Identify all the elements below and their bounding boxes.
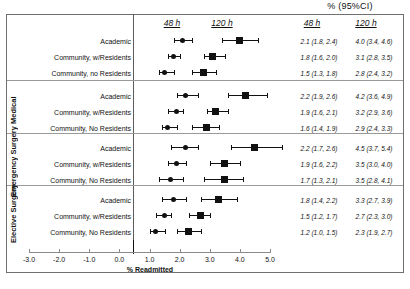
ci-cap-upper [174, 70, 175, 75]
ci-cap-upper [267, 93, 268, 98]
panel-elective-surgery: Elective SurgeryAcademic1.8 (1.4, 2.2)3.… [7, 189, 403, 239]
point-estimate-120h [221, 160, 228, 167]
point-estimate-48h [162, 213, 167, 218]
value-cell-120h: 3.3 (2.7, 3.9) [345, 197, 403, 204]
value-cell-120h: 2.9 (2.4, 3.3) [345, 125, 403, 132]
ci-cap-lower [159, 177, 160, 182]
column-header-plot-48h: 48 h [150, 18, 194, 28]
axis-tick [29, 249, 30, 253]
ci-cap-upper [177, 125, 178, 130]
value-cell-48h: 2.2 (1.9, 2.6) [291, 93, 347, 100]
ci-cap-lower [210, 161, 211, 166]
point-estimate-48h [171, 54, 176, 59]
ci-cap-lower [171, 145, 172, 150]
panel-divider [7, 80, 403, 81]
axis-tick [89, 249, 90, 253]
point-estimate-120h [236, 37, 243, 44]
ci-cap-lower [159, 70, 160, 75]
ci-cap-lower [156, 213, 157, 218]
value-cell-48h: 1.8 (1.4, 2.2) [291, 197, 347, 204]
ci-cap-upper [219, 125, 220, 130]
axis-tick [270, 249, 271, 253]
ci-cap-lower [192, 70, 193, 75]
ci-cap-upper [225, 54, 226, 59]
ci-cap-lower [177, 229, 178, 234]
ci-cap-upper [183, 109, 184, 114]
value-cell-48h: 1.5 (1.3, 1.8) [291, 70, 347, 77]
value-cell-120h: 3.2 (2.9, 3.6) [345, 109, 403, 116]
ci-cap-lower [168, 161, 169, 166]
point-estimate-120h [215, 196, 222, 203]
ci-cap-upper [243, 177, 244, 182]
axis-tick-label: 3.0 [198, 256, 222, 263]
ci-cap-upper [258, 38, 259, 43]
ci-cap-upper [198, 145, 199, 150]
ci-cap-lower [150, 229, 151, 234]
point-estimate-120h [221, 176, 228, 183]
ci-cap-upper [201, 229, 202, 234]
ci-cap-lower [168, 54, 169, 59]
point-estimate-48h [183, 93, 188, 98]
ci-cap-lower [207, 109, 208, 114]
ci-cap-upper [180, 54, 181, 59]
axis-tick-label: 5.0 [258, 256, 282, 263]
point-estimate-120h [242, 92, 249, 99]
axis-tick [150, 249, 151, 253]
ci-cap-upper [282, 145, 283, 150]
ci-cap-lower [177, 93, 178, 98]
axis-tick [59, 249, 60, 253]
ci-cap-lower [174, 38, 175, 43]
point-estimate-120h [200, 69, 207, 76]
value-cell-120h: 3.5 (3.0, 4.0) [345, 161, 403, 168]
point-estimate-48h [165, 125, 170, 130]
axis-tick [240, 249, 241, 253]
ci-cap-upper [186, 197, 187, 202]
point-estimate-48h [174, 109, 179, 114]
x-axis-title: % Readmitted [80, 266, 220, 273]
value-cell-48h: 1.5 (1.2, 1.7) [291, 213, 347, 220]
ci-cap-upper [198, 93, 199, 98]
value-cell-120h: 3.1 (2.8, 3.5) [345, 54, 403, 61]
ci-cap-upper [237, 197, 238, 202]
value-cell-48h: 2.1 (1.8, 2.4) [291, 38, 347, 45]
axis-tick [180, 249, 181, 253]
ci-cap-upper [228, 109, 229, 114]
column-header-value-48h: 48 h [288, 18, 336, 28]
panel-overall: Academic2.1 (1.8, 2.4)4.0 (3.4, 4.6)Comm… [7, 30, 403, 82]
panel-medical: MedicalAcademic2.2 (1.9, 2.6)4.2 (3.6, 4… [7, 85, 403, 135]
axis-tick [119, 249, 120, 253]
ci-cap-upper [216, 70, 217, 75]
value-cell-48h: 1.8 (1.6, 2.0) [291, 54, 347, 61]
point-estimate-48h [174, 161, 179, 166]
point-estimate-120h [212, 108, 219, 115]
point-estimate-120h [203, 124, 210, 131]
ci-cap-lower [204, 177, 205, 182]
ci-cap-upper [210, 213, 211, 218]
column-header-plot-120h: 120 h [196, 18, 248, 28]
value-cell-120h: 4.5 (3.7, 5.4) [345, 145, 403, 152]
point-estimate-48h [168, 177, 173, 182]
axis-tick-label: 4.0 [228, 256, 252, 263]
ci-cap-lower [201, 197, 202, 202]
ci-cap-upper [171, 213, 172, 218]
panel-emergency-surgery: Emergency SurgeryAcademic2.2 (1.7, 2.6)4… [7, 137, 403, 187]
column-header-value-120h: 120 h [340, 18, 392, 28]
ci-cap-upper [165, 229, 166, 234]
point-estimate-120h [209, 53, 216, 60]
value-cell-120h: 3.5 (2.8, 4.1) [345, 177, 403, 184]
ci-cap-lower [162, 125, 163, 130]
panel-divider [7, 133, 403, 134]
value-cell-48h: 1.7 (1.3, 2.1) [291, 177, 347, 184]
axis-tick-label: 0.0 [107, 256, 131, 263]
axis-tick-label: 1.0 [138, 256, 162, 263]
ci-cap-upper [192, 38, 193, 43]
ci-cap-lower [204, 54, 205, 59]
point-estimate-48h [183, 145, 188, 150]
point-estimate-120h [185, 228, 192, 235]
value-cell-48h: 1.9 (1.6, 2.1) [291, 109, 347, 116]
axis-tick-label: -1.0 [77, 256, 101, 263]
figure-top-title: % (95%CI) [300, 1, 400, 11]
value-cell-120h: 2.3 (1.9, 2.7) [345, 229, 403, 236]
ci-cap-lower [168, 109, 169, 114]
ci-cap-upper [186, 161, 187, 166]
